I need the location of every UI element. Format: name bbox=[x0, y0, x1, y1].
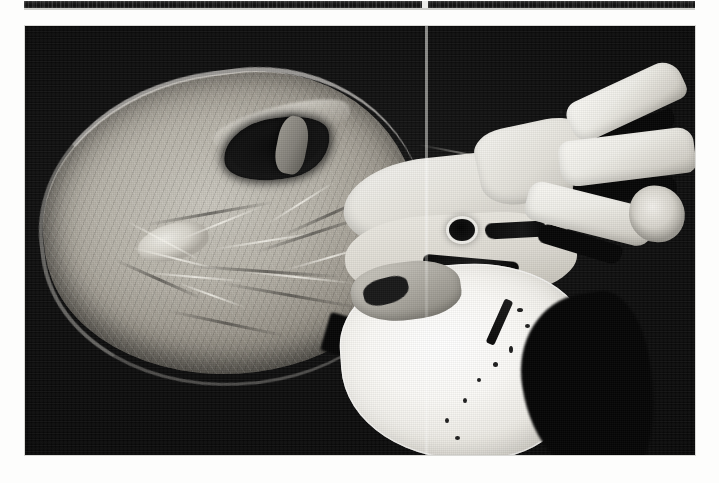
tissue-speck bbox=[477, 378, 481, 382]
tissue-speck bbox=[463, 398, 467, 403]
tissue-speck bbox=[445, 418, 449, 423]
scanned-page: Grayscale photograph of a dissected hear… bbox=[0, 0, 719, 483]
heart-specimen-photograph bbox=[25, 26, 695, 455]
tissue-speck bbox=[509, 346, 513, 353]
coronary-ostium bbox=[449, 219, 475, 241]
figure-alt-text: Grayscale photograph of a dissected hear… bbox=[0, 0, 1, 1]
tissue-speck bbox=[455, 436, 460, 440]
tissue-speck bbox=[517, 308, 523, 312]
tissue-speck bbox=[493, 362, 498, 367]
tissue-speck bbox=[525, 324, 530, 328]
strip-base-edge bbox=[24, 8, 695, 10]
partial-figure-above bbox=[24, 1, 695, 10]
vertical-scan-line bbox=[425, 26, 428, 455]
